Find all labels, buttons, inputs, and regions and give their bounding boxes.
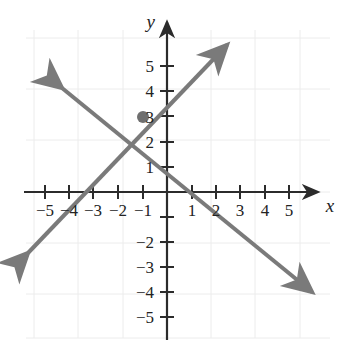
x-tick-label-2: 2 (212, 201, 221, 220)
y-tick-label-5: 5 (146, 57, 155, 76)
x-tick-label-3: 3 (236, 201, 245, 220)
y-tick-label-2: 2 (146, 133, 155, 152)
x-tick-label--2: −2 (109, 201, 127, 220)
x-tick-label-4: 4 (261, 201, 270, 220)
y-tick-label--5: −5 (136, 308, 154, 327)
coordinate-plane-svg: −5 −4 −3 −2 −1 1 2 3 4 5 5 4 3 2 1 −2 −3… (0, 0, 354, 351)
y-tick-label-1: 1 (146, 158, 155, 177)
y-axis-label: y (145, 11, 156, 32)
y-tick-label-3: 3 (146, 108, 155, 127)
x-tick-label--1: −1 (134, 201, 152, 220)
x-tick-label--3: −3 (84, 201, 102, 220)
y-tick-label--4: −4 (136, 283, 155, 302)
figure-background (0, 0, 354, 351)
y-tick-label-4: 4 (146, 82, 155, 101)
x-tick-label-5: 5 (285, 201, 294, 220)
x-axis-label: x (325, 195, 335, 216)
y-tick-label--2: −2 (136, 233, 154, 252)
graph-figure: −5 −4 −3 −2 −1 1 2 3 4 5 5 4 3 2 1 −2 −3… (0, 0, 354, 351)
x-tick-label--4: −4 (60, 201, 79, 220)
y-tick-label--3: −3 (136, 258, 154, 277)
x-tick-label-1: 1 (188, 201, 197, 220)
x-tick-label--5: −5 (36, 201, 54, 220)
